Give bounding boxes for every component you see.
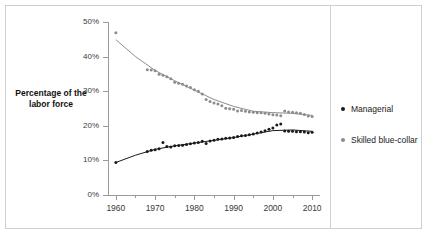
data-point: [307, 115, 310, 118]
data-point: [213, 139, 216, 142]
y-axis-tick: [103, 195, 108, 196]
y-axis-tick-label: 50%: [73, 17, 99, 26]
data-point: [267, 128, 270, 131]
x-axis-tick-label: 1980: [179, 203, 209, 213]
data-point: [197, 90, 200, 93]
series-managerial: [114, 123, 313, 164]
data-point: [287, 110, 290, 113]
data-point: [224, 107, 227, 110]
data-point: [260, 131, 263, 134]
x-axis-minor-tick: [214, 196, 215, 198]
data-point: [193, 142, 196, 145]
data-point: [161, 141, 164, 144]
y-axis-tick-label: 10%: [73, 155, 99, 164]
data-point: [264, 129, 267, 132]
data-point: [114, 31, 117, 34]
data-point: [197, 141, 200, 144]
data-point: [279, 123, 282, 126]
data-point: [177, 144, 180, 147]
data-point: [275, 124, 278, 127]
data-point: [224, 137, 227, 140]
data-point: [228, 136, 231, 139]
y-axis-tick-label: 30%: [73, 86, 99, 95]
data-point: [150, 69, 153, 72]
data-point: [201, 92, 204, 95]
data-point: [244, 134, 247, 137]
data-point: [169, 145, 172, 148]
data-point: [220, 104, 223, 107]
data-point: [303, 131, 306, 134]
x-axis-tick-label: 1990: [219, 203, 249, 213]
data-point: [158, 73, 161, 76]
data-point: [161, 74, 164, 77]
data-point: [165, 75, 168, 78]
data-point: [311, 131, 314, 134]
data-point: [287, 130, 290, 133]
data-point: [232, 108, 235, 111]
legend-item: Skilled blue-collar: [341, 135, 425, 146]
legend-item: Managerial: [341, 104, 425, 115]
data-point: [267, 113, 270, 116]
data-point: [256, 111, 259, 114]
data-point: [169, 77, 172, 80]
data-point: [252, 133, 255, 136]
x-axis-minor-tick: [293, 196, 294, 198]
x-axis-tick-label: 2000: [258, 203, 288, 213]
data-point: [232, 136, 235, 139]
data-point: [303, 113, 306, 116]
x-axis-minor-tick: [253, 196, 254, 198]
data-point: [295, 111, 298, 114]
data-point: [283, 109, 286, 112]
x-axis-tick: [194, 196, 195, 200]
dot-marker: [341, 138, 345, 142]
data-point: [236, 109, 239, 112]
data-point: [165, 145, 168, 148]
data-point: [154, 148, 157, 151]
data-point: [299, 130, 302, 133]
x-axis-tick-label: 1970: [140, 203, 170, 213]
data-point: [271, 113, 274, 116]
data-point: [244, 110, 247, 113]
y-axis-tick-label: 0%: [73, 190, 99, 199]
data-point: [252, 111, 255, 114]
data-point: [189, 86, 192, 89]
legend-item-label: Skilled blue-collar: [351, 135, 418, 146]
legend-divider: [330, 6, 331, 228]
chart-legend: ManagerialSkilled blue-collar: [341, 104, 425, 166]
dot-marker: [341, 107, 345, 111]
data-point: [216, 103, 219, 106]
data-point: [228, 107, 231, 110]
data-point: [248, 133, 251, 136]
data-point: [216, 138, 219, 141]
x-axis-tick: [273, 196, 274, 200]
data-point: [307, 131, 310, 134]
data-point: [240, 134, 243, 137]
data-point: [271, 126, 274, 129]
data-point: [209, 100, 212, 103]
data-point: [150, 149, 153, 152]
data-point: [220, 137, 223, 140]
data-point: [173, 144, 176, 147]
data-point: [291, 111, 294, 114]
trend-line: [116, 130, 312, 163]
data-point: [260, 111, 263, 114]
x-axis-tick: [116, 196, 117, 200]
y-axis-tick-label: 40%: [73, 52, 99, 61]
data-point: [291, 130, 294, 133]
data-point: [256, 132, 259, 135]
plot-area: [108, 22, 320, 195]
data-point: [177, 82, 180, 85]
data-point: [201, 140, 204, 143]
data-point: [236, 135, 239, 138]
data-point: [279, 114, 282, 117]
y-axis-tick-label: 20%: [73, 121, 99, 130]
data-point: [181, 83, 184, 86]
legend-item-label: Managerial: [351, 104, 393, 115]
data-point: [248, 110, 251, 113]
data-point: [275, 114, 278, 117]
x-axis-tick-label: 2010: [297, 203, 327, 213]
data-point: [311, 115, 314, 118]
data-point: [205, 98, 208, 101]
data-point: [205, 142, 208, 145]
data-point: [213, 101, 216, 104]
